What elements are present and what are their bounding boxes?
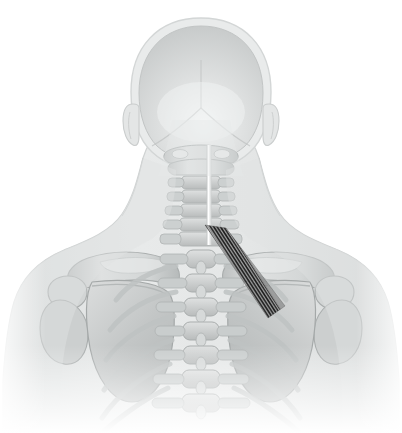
vertebra-c3 [168,176,234,189]
upper-neck-overlay [158,120,244,176]
bottom-fade [0,345,402,433]
ear-left [123,104,139,146]
right-fade [356,240,402,433]
left-fade [0,240,46,433]
vertebra-c5 [165,204,237,217]
ear-right [263,104,279,146]
vertebra-c6 [163,218,239,231]
anatomical-illustration: Posterior view of head, neck, shoulders … [0,0,402,433]
anatomy-canvas [0,0,402,433]
vertebra-c4 [167,190,235,203]
